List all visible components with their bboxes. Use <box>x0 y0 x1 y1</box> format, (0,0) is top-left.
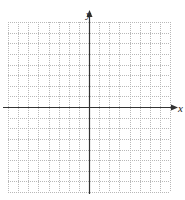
x-axis-arrow-icon <box>171 105 178 111</box>
x-axis-label: x <box>177 102 183 114</box>
axes <box>3 10 178 194</box>
coordinate-plane: x y <box>0 0 185 200</box>
y-axis-label: y <box>85 8 91 20</box>
